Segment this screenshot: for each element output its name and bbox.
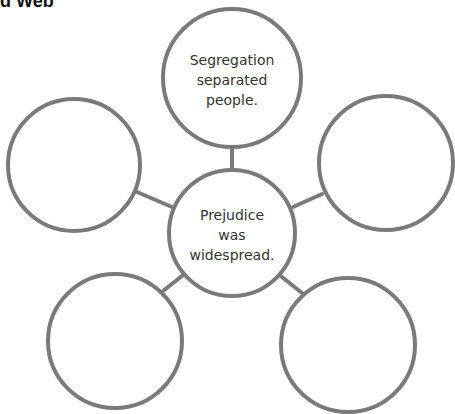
connector-bottom-right	[277, 273, 302, 293]
text-line: people.	[172, 90, 292, 110]
node-bottom-right-circle[interactable]	[281, 278, 415, 412]
connector-left	[137, 192, 172, 207]
text-line: separated	[172, 70, 292, 90]
text-line: widespread.	[172, 245, 292, 265]
text-line: Segregation	[172, 50, 292, 70]
connector-right	[293, 194, 322, 207]
center-text: Prejudice was widespread.	[172, 205, 292, 265]
text-line: was	[172, 225, 292, 245]
node-top-text: Segregation separated people.	[172, 50, 292, 110]
node-right-circle[interactable]	[319, 96, 453, 230]
node-left-circle[interactable]	[8, 99, 140, 231]
text-line: Prejudice	[172, 205, 292, 225]
node-bottom-left-circle[interactable]	[48, 274, 182, 408]
